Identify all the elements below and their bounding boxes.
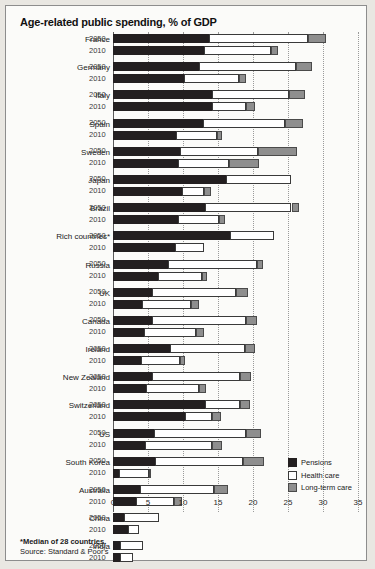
bar-segment-health-care bbox=[152, 316, 247, 325]
bar-segment-health-care bbox=[152, 288, 236, 297]
stacked-bar[interactable] bbox=[113, 260, 263, 269]
country-group: Switzerland20502010 bbox=[6, 398, 368, 426]
bar-segment-health-care bbox=[155, 457, 243, 466]
stacked-bar[interactable] bbox=[113, 553, 133, 562]
stacked-bar[interactable] bbox=[113, 102, 255, 111]
stacked-bar[interactable] bbox=[113, 400, 250, 409]
stacked-bar[interactable] bbox=[113, 485, 229, 494]
bar-segment-health-care bbox=[205, 400, 240, 409]
stacked-bar[interactable] bbox=[113, 175, 292, 184]
bar-segment-health-care bbox=[212, 102, 246, 111]
bar-segment-long-term-care bbox=[214, 485, 229, 494]
bar-segment-pensions bbox=[113, 34, 209, 43]
bar-segment-pensions bbox=[113, 485, 140, 494]
bar-segment-health-care bbox=[226, 175, 291, 184]
country-group: Brazil20502010 bbox=[6, 201, 368, 229]
bar-segment-pensions bbox=[113, 441, 145, 450]
bar-segment-pensions bbox=[113, 372, 152, 381]
bar-segment-long-term-care bbox=[257, 260, 263, 269]
stacked-bar[interactable] bbox=[113, 90, 306, 99]
bar-segment-pensions bbox=[113, 62, 199, 71]
stacked-bar[interactable] bbox=[113, 74, 246, 83]
stacked-bar[interactable] bbox=[113, 187, 211, 196]
bar-segment-pensions bbox=[113, 288, 152, 297]
bar-segment-health-care bbox=[141, 356, 180, 365]
year-label-2010: 2010 bbox=[89, 327, 106, 336]
stacked-bar[interactable] bbox=[113, 272, 207, 281]
year-label-2050: 2050 bbox=[89, 90, 106, 99]
country-group: Japan20502010 bbox=[6, 173, 368, 201]
year-label-2010: 2010 bbox=[89, 525, 106, 534]
bar-segment-long-term-care bbox=[199, 384, 206, 393]
stacked-bar[interactable] bbox=[113, 46, 278, 55]
year-label-2010: 2010 bbox=[89, 440, 106, 449]
stacked-bar[interactable] bbox=[113, 147, 297, 156]
year-label-2010: 2010 bbox=[89, 215, 106, 224]
country-group: UK20502010 bbox=[6, 286, 368, 314]
x-tick-5: 5 bbox=[146, 498, 150, 507]
bar-segment-pensions bbox=[113, 457, 155, 466]
stacked-bar[interactable] bbox=[113, 243, 204, 252]
bar-segment-long-term-care bbox=[292, 203, 300, 212]
country-group: Italy20502010 bbox=[6, 88, 368, 116]
stacked-bar[interactable] bbox=[113, 62, 313, 71]
stacked-bar[interactable] bbox=[113, 231, 274, 240]
year-label-2010: 2010 bbox=[89, 102, 106, 111]
stacked-bar[interactable] bbox=[113, 513, 159, 522]
x-tick-30: 30 bbox=[319, 498, 328, 507]
footnote-block: *Median of 28 countries. Source: Standar… bbox=[20, 537, 109, 557]
bar-segment-long-term-care bbox=[246, 429, 261, 438]
year-label-2050: 2050 bbox=[89, 34, 106, 43]
stacked-bar[interactable] bbox=[113, 372, 251, 381]
year-label-2050: 2050 bbox=[89, 62, 106, 71]
bar-segment-long-term-care bbox=[296, 62, 312, 71]
stacked-bar[interactable] bbox=[113, 525, 139, 534]
bar-segment-long-term-care bbox=[196, 328, 204, 337]
year-label-2050: 2050 bbox=[89, 513, 106, 522]
stacked-bar[interactable] bbox=[113, 384, 206, 393]
stacked-bar[interactable] bbox=[113, 344, 255, 353]
bar-segment-long-term-care bbox=[240, 400, 251, 409]
bar-segment-pensions bbox=[113, 102, 212, 111]
stacked-bar[interactable] bbox=[113, 412, 221, 421]
stacked-bar[interactable] bbox=[113, 288, 248, 297]
stacked-bar[interactable] bbox=[113, 34, 326, 43]
stacked-bar[interactable] bbox=[113, 457, 264, 466]
bar-segment-health-care bbox=[145, 441, 213, 450]
year-label-2050: 2050 bbox=[89, 118, 106, 127]
bar-segment-health-care bbox=[152, 372, 240, 381]
stacked-bar[interactable] bbox=[113, 356, 185, 365]
bar-segment-pensions bbox=[113, 231, 230, 240]
bar-segment-pensions bbox=[113, 328, 144, 337]
stacked-bar[interactable] bbox=[113, 429, 261, 438]
year-label-2050: 2050 bbox=[89, 485, 106, 494]
bar-segment-pensions bbox=[113, 356, 141, 365]
bar-segment-long-term-care bbox=[271, 46, 278, 55]
stacked-bar[interactable] bbox=[113, 541, 143, 550]
bar-segment-pensions bbox=[113, 429, 154, 438]
bar-segment-health-care bbox=[142, 300, 191, 309]
stacked-bar[interactable] bbox=[113, 328, 204, 337]
legend-item-health: Health care bbox=[288, 471, 374, 480]
bar-segment-health-care bbox=[170, 344, 246, 353]
stacked-bar[interactable] bbox=[113, 469, 152, 478]
stacked-bar[interactable] bbox=[113, 215, 225, 224]
x-tick-35: 35 bbox=[354, 498, 363, 507]
stacked-bar[interactable] bbox=[113, 300, 199, 309]
stacked-bar[interactable] bbox=[113, 159, 259, 168]
footnote-median: *Median of 28 countries. bbox=[20, 537, 109, 547]
bar-segment-pensions bbox=[113, 46, 204, 55]
stacked-bar[interactable] bbox=[113, 203, 299, 212]
stacked-bar[interactable] bbox=[113, 316, 257, 325]
stacked-bar[interactable] bbox=[113, 131, 222, 140]
bar-segment-long-term-care bbox=[285, 119, 303, 128]
bar-segment-pensions bbox=[113, 131, 176, 140]
bar-segment-health-care bbox=[154, 429, 246, 438]
legend-label-health: Health care bbox=[301, 471, 339, 480]
stacked-bar[interactable] bbox=[113, 441, 222, 450]
stacked-bar[interactable] bbox=[113, 119, 303, 128]
year-label-2050: 2050 bbox=[89, 428, 106, 437]
country-group: Russia20502010 bbox=[6, 258, 368, 286]
year-label-2010: 2010 bbox=[89, 186, 106, 195]
year-label-2050: 2050 bbox=[89, 203, 106, 212]
